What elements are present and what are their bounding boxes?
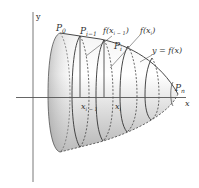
label-f-xi: f(xi) [139, 26, 155, 36]
label-p0: P0 [55, 23, 66, 34]
label-f-xi-minus-1: f(xi − 1) [102, 26, 129, 36]
label-pi: Pi [113, 41, 122, 52]
label-pn: Pn [174, 83, 185, 94]
y-axis-label: y [35, 12, 41, 21]
x-axis-label: x [185, 99, 190, 108]
label-pi-minus-1: Pi−1 [79, 26, 97, 37]
solid-of-revolution-diagram: y x P0 Pi−1 Pi Pn f(xi − 1) [0, 0, 199, 188]
label-curve-equation: y = f(x) [151, 46, 182, 55]
